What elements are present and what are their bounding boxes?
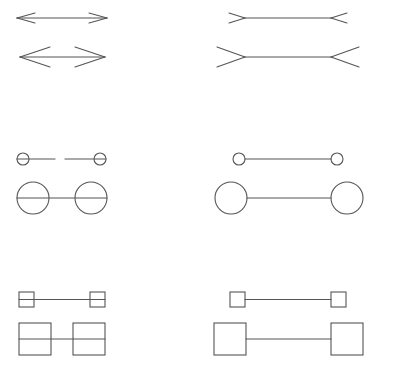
squares-small-inner <box>19 292 105 307</box>
figure-canvas <box>0 0 398 370</box>
circles-large-inner <box>17 182 107 214</box>
arrow-inward-large <box>20 47 105 67</box>
circles-small-outer <box>233 153 343 165</box>
squares-large-inner <box>19 323 105 355</box>
squares-large-outer <box>214 323 363 355</box>
circles-small-inner <box>17 153 106 165</box>
arrow-inward-small <box>17 13 107 23</box>
fins-outward-small <box>229 13 347 23</box>
circles-large-outer <box>215 182 363 214</box>
squares-small-outer <box>230 292 346 307</box>
fins-outward-large <box>217 47 359 67</box>
illusion-figure <box>0 0 398 370</box>
